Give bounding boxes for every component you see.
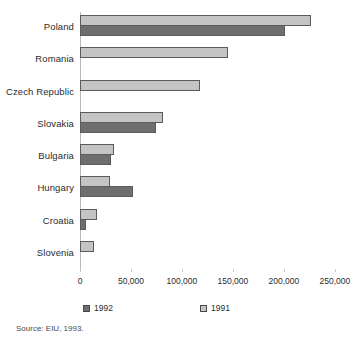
category-label: Hungary bbox=[0, 182, 74, 193]
axis-tick-label: 250,000 bbox=[319, 276, 350, 286]
plot-area bbox=[80, 12, 342, 270]
category-label: Poland bbox=[0, 21, 74, 32]
axis-tick-mark bbox=[284, 269, 285, 272]
axis-tick-mark bbox=[182, 269, 183, 272]
axis-tick-label: 100,000 bbox=[167, 276, 198, 286]
bar-1991 bbox=[80, 241, 94, 252]
category-label: Slovenia bbox=[0, 247, 74, 258]
source-note: Source: EIU, 1993. bbox=[16, 324, 84, 333]
value-axis: 050,000100,000150,000200,000250,000 bbox=[80, 272, 342, 288]
category-label: Czech Republic bbox=[0, 86, 74, 97]
axis-tick-mark bbox=[80, 269, 81, 272]
legend-item-1992[interactable]: 1992 bbox=[83, 303, 113, 313]
category-label: Slovakia bbox=[0, 118, 74, 129]
bar-1992 bbox=[80, 154, 111, 165]
axis-tick-label: 200,000 bbox=[269, 276, 300, 286]
light-square-swatch-icon bbox=[200, 305, 207, 312]
bar-1992 bbox=[80, 25, 285, 36]
bar-1991 bbox=[80, 47, 228, 58]
axis-tick-label: 0 bbox=[78, 276, 83, 286]
axis-tick-mark bbox=[131, 269, 132, 272]
legend-item-1991[interactable]: 1991 bbox=[200, 303, 230, 313]
bar-chart: PolandRomaniaCzech RepublicSlovakiaBulga… bbox=[0, 0, 362, 343]
axis-tick-label: 50,000 bbox=[118, 276, 144, 286]
legend-label-1992: 1992 bbox=[94, 303, 113, 313]
axis-tick-label: 150,000 bbox=[218, 276, 249, 286]
bar-1992 bbox=[80, 186, 133, 197]
bar-1991 bbox=[80, 80, 200, 91]
dark-square-swatch-icon bbox=[83, 305, 90, 312]
category-label: Bulgaria bbox=[0, 150, 74, 161]
bar-1992 bbox=[80, 219, 86, 230]
category-label: Romania bbox=[0, 53, 74, 64]
chart-legend: 1992 1991 bbox=[80, 303, 342, 319]
legend-label-1991: 1991 bbox=[211, 303, 230, 313]
bar-1992 bbox=[80, 122, 156, 133]
category-axis-labels: PolandRomaniaCzech RepublicSlovakiaBulga… bbox=[0, 12, 74, 270]
category-label: Croatia bbox=[0, 215, 74, 226]
axis-tick-mark bbox=[233, 269, 234, 272]
axis-tick-mark bbox=[335, 269, 336, 272]
